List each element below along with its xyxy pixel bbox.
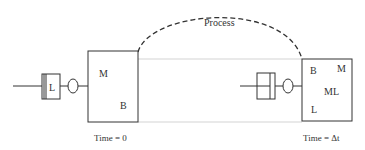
right-ml-label: ML: [324, 86, 339, 97]
process-label: Process: [204, 17, 235, 28]
right-caption: Time = Δt: [303, 133, 340, 143]
left-caption: Time = 0: [94, 133, 127, 143]
left-m-label: M: [99, 68, 108, 79]
right-joint-circle: [283, 79, 293, 93]
left-joint-circle: [68, 79, 78, 93]
right-l-label: L: [311, 104, 317, 115]
left-box: [88, 51, 138, 122]
right-system: B M ML L Time = Δt: [240, 59, 352, 143]
process-diagram: Process L M B Time = 0 B M ML L Time = Δ…: [0, 0, 365, 150]
left-system: L M B Time = 0: [13, 51, 138, 143]
left-l-label: L: [49, 82, 55, 93]
right-m-label: M: [337, 63, 346, 74]
right-b-label: B: [310, 65, 317, 76]
left-b-label: B: [120, 100, 127, 111]
